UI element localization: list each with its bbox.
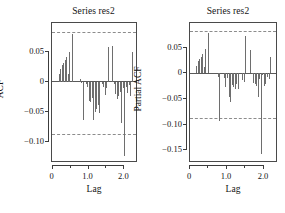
spike-bar [270, 57, 271, 73]
spike-bar [87, 82, 88, 87]
y-axis-tick-label: 0.05 [142, 42, 182, 52]
spike-bar [233, 73, 234, 86]
spike-bar [69, 52, 70, 82]
spike-bar [238, 73, 239, 88]
y-axis-tick-label: 0 [142, 67, 182, 77]
acf-y-axis-title: ACF [0, 69, 5, 109]
spike-bar [250, 50, 251, 73]
y-axis-tick [183, 72, 187, 73]
spike-bar [130, 82, 131, 96]
spike-bar [66, 57, 67, 82]
spike-bar [219, 73, 220, 121]
spike-bar [262, 73, 263, 75]
spike-bar [230, 73, 231, 102]
y-axis-tick [183, 47, 187, 48]
spike-bar [242, 73, 243, 80]
acf-bars [52, 23, 136, 161]
spike-bar [127, 82, 128, 93]
y-axis-tick-label: −0.05 [4, 106, 44, 116]
y-axis-tick-label: −0.05 [142, 93, 182, 103]
x-axis-tick-label: 1.0 [211, 171, 241, 181]
y-axis-tick-label: −0.10 [142, 119, 182, 129]
spike-bar [63, 63, 64, 82]
spike-bar [205, 49, 206, 73]
y-axis-tick [45, 81, 49, 82]
y-axis-tick [183, 149, 187, 150]
spike-bar [106, 82, 107, 89]
spike-bar [96, 82, 97, 109]
spike-bar [83, 82, 84, 120]
y-axis-tick-label: −0.10 [4, 136, 44, 146]
x-axis-tick [123, 165, 124, 169]
panel-acf: Series res2 0.050−0.05−0.1001.02.0 ACF L… [0, 0, 143, 213]
spike-bar [124, 82, 125, 157]
y-axis-tick [45, 141, 49, 142]
y-axis-tick-label: 0 [4, 76, 44, 86]
spike-bar [72, 34, 73, 81]
spike-bar [253, 73, 254, 83]
spike-bar [256, 73, 257, 85]
x-axis-minor-tick [207, 165, 208, 168]
spike-bar [267, 73, 268, 77]
spike-bar [93, 82, 94, 120]
spike-bar [99, 82, 100, 113]
spike-bar [227, 73, 228, 78]
spike-bar [269, 73, 270, 79]
x-axis-tick-label: 0 [37, 171, 67, 181]
y-axis-tick-label: 0.05 [4, 46, 44, 56]
acf-x-axis-title: Lag [51, 184, 137, 194]
pacf-plot-area [189, 22, 277, 162]
acf-plot-area [51, 22, 137, 162]
x-axis-minor-tick [244, 165, 245, 168]
confidence-band-line-upper [190, 31, 276, 32]
y-axis-tick [45, 111, 49, 112]
spike-bar [90, 82, 91, 102]
x-axis-tick-label: 1.0 [73, 171, 103, 181]
spike-bar [244, 73, 245, 82]
spike-bar [245, 36, 246, 73]
spike-bar [199, 59, 200, 73]
y-axis-line [48, 51, 49, 141]
spike-bar [259, 73, 260, 79]
x-axis-tick [263, 165, 264, 169]
confidence-band-line-upper [52, 32, 136, 33]
panel-pacf-title: Series res2 [143, 6, 285, 16]
confidence-band-line-lower [190, 118, 276, 119]
spike-bar [261, 73, 262, 154]
spike-bar [112, 46, 113, 82]
x-axis-tick [88, 165, 89, 169]
spike-bar [225, 73, 226, 86]
panel-pacf: Series res2 0.050−0.05−0.10−0.1501.02.0 … [143, 0, 285, 213]
pacf-bars [190, 23, 276, 161]
spike-bar [208, 33, 209, 74]
spike-bar [236, 73, 237, 84]
x-axis-minor-tick [105, 165, 106, 168]
spike-bar [108, 47, 109, 82]
pacf-x-axis-title: Lag [189, 184, 277, 194]
acf-pacf-figure: Series res2 0.050−0.05−0.1001.02.0 ACF L… [0, 0, 285, 213]
y-axis-tick-label: −0.15 [142, 144, 182, 154]
spike-bar [196, 66, 197, 73]
panel-acf-title: Series res2 [0, 6, 165, 16]
x-axis-tick-label: 2.0 [248, 171, 278, 181]
spike-bar [121, 82, 122, 123]
x-axis-tick [52, 165, 53, 169]
spike-bar [118, 82, 119, 96]
spike-bar [81, 82, 82, 83]
pacf-y-axis-title: Partial ACF [133, 54, 143, 124]
spike-bar [103, 82, 104, 87]
x-axis-minor-tick [70, 165, 71, 168]
x-axis-tick [189, 165, 190, 169]
y-axis-tick [183, 124, 187, 125]
spike-bar [115, 82, 116, 95]
x-axis-tick-label: 2.0 [108, 171, 138, 181]
spike-bar [265, 73, 266, 84]
y-axis-tick [183, 98, 187, 99]
y-axis-tick [45, 51, 49, 52]
x-axis-tick [226, 165, 227, 169]
x-axis-tick-label: 0 [174, 171, 204, 181]
spike-bar [60, 69, 61, 82]
spike-bar [202, 54, 203, 73]
